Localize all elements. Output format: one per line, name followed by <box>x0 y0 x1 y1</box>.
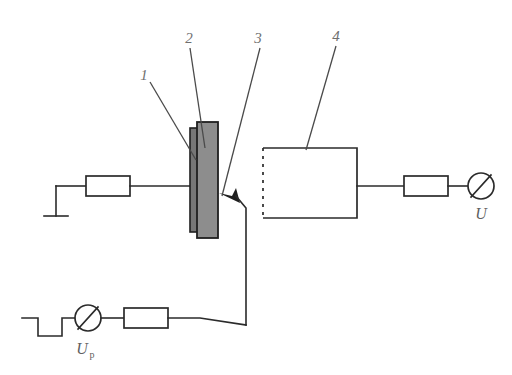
leader-line-4 <box>306 46 336 150</box>
sample-main-layer <box>197 122 218 238</box>
pulse-branch <box>22 305 246 336</box>
contact-arrow <box>219 188 246 325</box>
diagram-canvas: 1 2 3 4 U U p <box>0 0 512 375</box>
left-branch <box>44 176 191 216</box>
resistor-right <box>404 176 448 196</box>
wire-resistor-pulse-to-sample <box>168 318 246 325</box>
callout-leaders <box>150 46 336 196</box>
callout-label-3: 3 <box>253 30 262 46</box>
callout-label-2: 2 <box>185 30 193 46</box>
resistor-left <box>86 176 130 196</box>
callout-label-4: 4 <box>332 28 340 44</box>
wire-sample-to-pulse-branch <box>236 196 246 325</box>
callout-label-1: 1 <box>140 67 148 83</box>
square-wave-source <box>22 318 78 336</box>
enclosure-outline <box>263 148 357 218</box>
output-voltage-label: U <box>475 205 488 222</box>
circuit-diagram: 1 2 3 4 U U p <box>0 0 512 375</box>
pulse-voltage-subscript: p <box>90 349 95 360</box>
leader-line-3 <box>222 48 260 196</box>
leader-line-1 <box>150 82 196 160</box>
pulse-voltage-label: U <box>76 340 89 357</box>
right-branch <box>357 173 494 199</box>
detector-enclosure <box>263 148 357 218</box>
resistor-pulse <box>124 308 168 328</box>
